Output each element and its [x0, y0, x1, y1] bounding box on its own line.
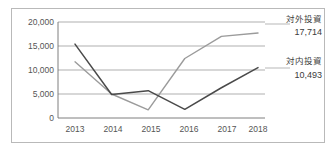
y-tick-label: 15,000 — [28, 41, 54, 51]
chart-figure: 20,000 15,000 10,000 5,000 0 2013 2014 2… — [0, 0, 335, 150]
y-tick-label: 0 — [49, 113, 54, 123]
x-tick-label: 2014 — [104, 124, 123, 134]
x-tick-label: 2015 — [142, 124, 161, 134]
annotation-outbound: 対外投資 17,714 — [286, 14, 322, 37]
y-axis-ticks: 20,000 15,000 10,000 5,000 0 — [28, 17, 54, 123]
series-name-inbound: 対内投資 — [286, 56, 322, 66]
annotation-inbound: 対内投資 10,493 — [286, 56, 322, 80]
x-tick-label: 2017 — [218, 124, 237, 134]
line-chart: 20,000 15,000 10,000 5,000 0 2013 2014 2… — [0, 0, 335, 150]
y-tick-label: 10,000 — [28, 65, 54, 75]
series-line-inbound — [75, 44, 258, 109]
x-tick-label: 2018 — [249, 124, 268, 134]
series-value-outbound: 17,714 — [294, 27, 322, 37]
series-name-outbound: 対外投資 — [286, 14, 322, 24]
x-tick-label: 2013 — [66, 124, 85, 134]
x-axis-ticks: 2013 2014 2015 2016 2017 2018 — [66, 124, 268, 134]
y-tick-label: 20,000 — [28, 17, 54, 27]
series-value-inbound: 10,493 — [294, 70, 322, 80]
gridlines — [58, 22, 265, 94]
x-tick-label: 2016 — [180, 124, 199, 134]
y-tick-label: 5,000 — [33, 89, 55, 99]
series-line-outbound — [75, 33, 258, 110]
